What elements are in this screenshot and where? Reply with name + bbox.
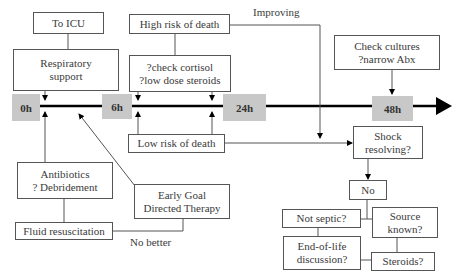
shock-resolving-box: Shock resolving?	[353, 126, 423, 159]
not-septic-box: Not septic?	[282, 209, 361, 228]
egdt-line-2: Directed Therapy	[143, 202, 220, 215]
to-icu-box: To ICU	[33, 12, 104, 34]
antibiotics-line-2: ? Debridement	[32, 181, 97, 194]
steroids-box: Steroids?	[371, 252, 435, 271]
time-marker-6h: 6h	[102, 94, 132, 119]
egdt-box: Early Goal Directed Therapy	[134, 184, 230, 219]
fluid-resuscitation-box: Fluid resuscitation	[15, 222, 113, 240]
no-better-label: No better	[130, 236, 171, 248]
cultures-line-1: Check cultures	[354, 40, 420, 53]
time-marker-48h: 48h	[372, 96, 413, 121]
eol-line-2: discussion?	[297, 253, 348, 266]
respiratory-line-2: support	[50, 70, 83, 83]
source-known-box: Source known?	[372, 207, 438, 238]
respiratory-line-1: Respiratory	[40, 57, 91, 70]
egdt-line-1: Early Goal	[158, 189, 206, 202]
low-risk-text: Low risk of death	[138, 137, 216, 150]
time-marker-24h: 24h	[223, 94, 266, 121]
source-line-2: known?	[388, 223, 423, 236]
shock-line-2: resolving?	[365, 143, 411, 156]
respiratory-support-box: Respiratory support	[13, 49, 119, 91]
eol-line-1: End-of-life	[298, 240, 347, 253]
improving-label: Improving	[253, 6, 299, 18]
low-risk-box: Low risk of death	[128, 134, 225, 153]
time-marker-0h: 0h	[12, 94, 40, 121]
end-of-life-box: End-of-life discussion?	[283, 236, 361, 270]
high-risk-box: High risk of death	[129, 14, 230, 34]
antibiotics-line-1: Antibiotics	[41, 168, 90, 181]
cortisol-line-1: ?check cortisol	[147, 61, 213, 74]
cultures-line-2: ?narrow Abx	[358, 53, 415, 66]
shock-line-1: Shock	[374, 130, 402, 143]
not-septic-text: Not septic?	[297, 212, 347, 225]
no-box: No	[349, 180, 387, 200]
no-text: No	[361, 184, 374, 197]
timeline-arrowhead-icon	[436, 97, 452, 115]
cortisol-box: ?check cortisol ?low dose steroids	[129, 55, 231, 92]
high-risk-text: High risk of death	[140, 18, 220, 31]
check-cultures-box: Check cultures ?narrow Abx	[334, 35, 440, 70]
cortisol-line-2: ?low dose steroids	[139, 74, 220, 87]
steroids-text: Steroids?	[383, 255, 424, 268]
fluid-text: Fluid resuscitation	[23, 225, 105, 238]
source-line-1: Source	[390, 210, 421, 223]
antibiotics-box: Antibiotics ? Debridement	[17, 162, 113, 199]
to-icu-text: To ICU	[52, 17, 85, 30]
